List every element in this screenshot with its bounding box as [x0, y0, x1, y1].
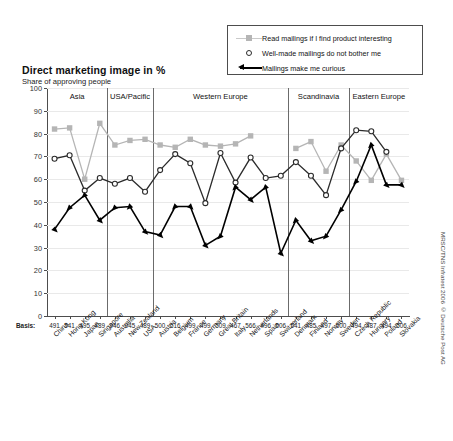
y-tick-mark [44, 202, 47, 203]
legend-label: Mailings make me curious [262, 64, 345, 73]
legend-item-well-made-mailings: Well-made mailings do not bother me [236, 46, 416, 60]
data-point-circle [203, 201, 208, 206]
data-point-square [218, 143, 223, 148]
direct-marketing-chart: Read mailings if I find product interest… [0, 0, 453, 441]
data-point-circle [158, 168, 163, 173]
y-tick-label: 0 [22, 312, 42, 321]
y-tick-label: 80 [22, 129, 42, 138]
data-point-circle [278, 173, 283, 178]
plot-area [47, 88, 409, 316]
x-tick-mark [160, 316, 161, 319]
region-label-eastern-europe: Eastern Europe [352, 92, 405, 101]
data-point-square [203, 142, 208, 147]
y-tick-label: 20 [22, 266, 42, 275]
data-point-square [308, 139, 313, 144]
y-tick-label: 40 [22, 220, 42, 229]
y-tick-mark [44, 156, 47, 157]
data-point-square [354, 158, 359, 163]
data-point-circle [263, 176, 268, 181]
series-line [55, 145, 402, 253]
x-tick-mark [100, 316, 101, 319]
series-2 [52, 128, 389, 206]
data-point-circle [248, 155, 253, 160]
y-tick-mark [44, 270, 47, 271]
legend-item-mailings-curious: Mailings make me curious [236, 61, 416, 75]
data-point-square [369, 178, 374, 183]
data-point-square [52, 126, 57, 131]
series-3 [51, 142, 404, 257]
x-tick-mark [55, 316, 56, 319]
data-point-square [233, 141, 238, 146]
basis-label: Basis: [16, 322, 35, 329]
legend-label: Well-made mailings do not bother me [262, 49, 381, 58]
data-point-triangle [353, 178, 359, 184]
data-point-triangle [157, 232, 163, 238]
region-label-western-europe: Western Europe [193, 92, 248, 101]
y-tick-mark [44, 293, 47, 294]
source-text: MRSC/TNS Infratest 2006 © Deutsche Post … [440, 232, 447, 365]
legend-label: Read mailings if I find product interest… [262, 34, 392, 43]
data-point-square [323, 169, 328, 174]
data-point-circle [233, 180, 238, 185]
data-point-triangle [172, 203, 178, 209]
y-tick-label: 10 [22, 289, 42, 298]
y-tick-mark [44, 225, 47, 226]
data-point-circle [218, 150, 223, 155]
data-point-circle [188, 161, 193, 166]
y-tick-mark [44, 316, 47, 317]
x-tick-mark [175, 316, 176, 319]
legend-item-read-mailings: Read mailings if I find product interest… [236, 31, 416, 45]
x-tick-mark [281, 316, 282, 319]
region-label-usa-pacific: USA/Pacific [110, 92, 150, 101]
y-tick-label: 60 [22, 175, 42, 184]
y-tick-label: 30 [22, 243, 42, 252]
data-point-triangle [187, 203, 193, 209]
data-point-circle [339, 146, 344, 151]
data-point-square [248, 133, 253, 138]
data-point-circle [354, 128, 359, 133]
y-tick-mark [44, 88, 47, 89]
data-point-circle [308, 173, 313, 178]
data-point-square [173, 145, 178, 150]
data-point-triangle [278, 250, 284, 256]
y-tick-label: 70 [22, 152, 42, 161]
data-point-circle [324, 193, 329, 198]
data-point-circle [127, 176, 132, 181]
data-point-circle [143, 189, 148, 194]
y-tick-label: 50 [22, 198, 42, 207]
data-point-circle [67, 153, 72, 158]
data-point-circle [82, 188, 87, 193]
data-point-circle [293, 160, 298, 165]
source-note: MRSC/TNS Infratest 2006 © Deutsche Post … [440, 232, 452, 412]
x-tick-mark [401, 316, 402, 319]
x-tick-mark [70, 316, 71, 319]
data-point-square [127, 138, 132, 143]
black-triangle-line-icon [236, 62, 262, 74]
data-point-square [142, 137, 147, 142]
y-tick-mark [44, 179, 47, 180]
series-line [55, 130, 387, 203]
x-tick-mark [251, 316, 252, 319]
data-point-circle [112, 181, 117, 186]
data-point-square [293, 146, 298, 151]
y-tick-mark [44, 134, 47, 135]
data-point-square [97, 121, 102, 126]
chart-title: Direct marketing image in % [22, 64, 165, 76]
data-point-square [188, 137, 193, 142]
y-tick-label: 100 [22, 84, 42, 93]
series-layer [47, 88, 409, 316]
region-label-scandinavia: Scandinavia [298, 92, 339, 101]
y-tick-mark [44, 248, 47, 249]
data-point-square [399, 178, 404, 183]
data-point-square [112, 142, 117, 147]
data-point-circle [384, 149, 389, 154]
data-point-triangle [112, 205, 118, 211]
y-tick-mark [44, 111, 47, 112]
chart-legend: Read mailings if I find product interest… [227, 25, 423, 75]
data-point-square [67, 125, 72, 130]
data-point-circle [52, 156, 57, 161]
region-label-asia: Asia [70, 92, 85, 101]
data-point-square [82, 177, 87, 182]
data-point-circle [97, 176, 102, 181]
series-1 [52, 121, 404, 183]
